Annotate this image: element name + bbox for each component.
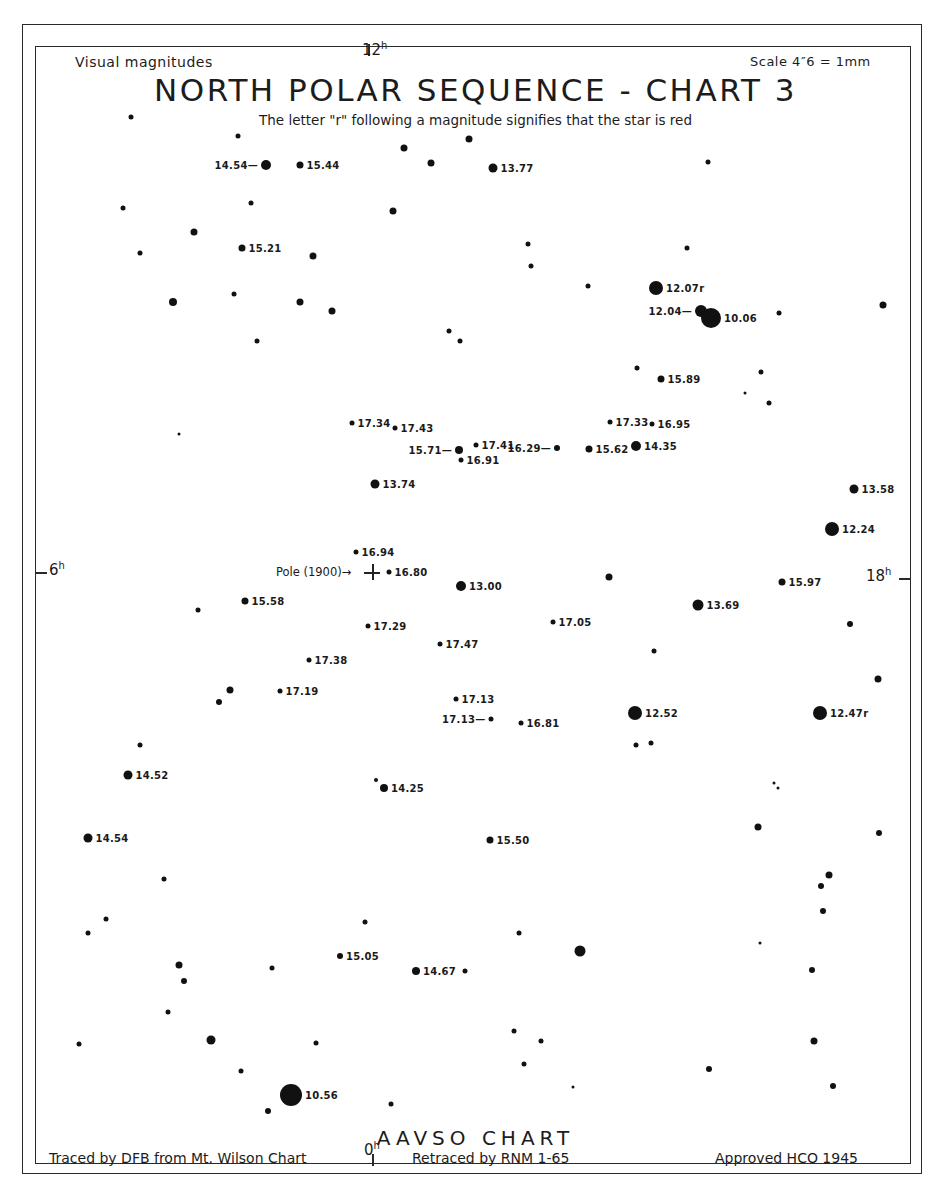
star-dot — [236, 134, 241, 139]
star-dot — [830, 1083, 836, 1089]
star-magnitude-label: 16.91 — [467, 455, 500, 466]
star-dot — [876, 830, 882, 836]
pole-label: Pole (1900)→ — [276, 565, 351, 579]
star-dot — [519, 721, 524, 726]
star-dot — [314, 1041, 319, 1046]
star-magnitude-label: 17.13— — [442, 714, 485, 725]
star-dot — [138, 743, 143, 748]
star-dot — [261, 160, 271, 170]
star-dot — [86, 931, 91, 936]
star-dot — [779, 579, 786, 586]
star-dot — [196, 608, 201, 613]
star-dot — [232, 292, 237, 297]
star-dot — [176, 962, 183, 969]
star-magnitude-label: 17.05 — [559, 617, 592, 628]
star-dot — [526, 242, 531, 247]
star-magnitude-label: 14.52 — [136, 770, 169, 781]
star-dot — [227, 687, 234, 694]
star-dot — [825, 522, 839, 536]
star-dot — [777, 787, 780, 790]
star-dot — [759, 370, 764, 375]
star-dot — [389, 1102, 394, 1107]
star-dot — [428, 160, 435, 167]
star-dot — [685, 246, 690, 251]
star-dot — [489, 717, 494, 722]
star-dot — [456, 581, 466, 591]
star-dot — [487, 837, 494, 844]
star-magnitude-label: 14.54 — [96, 833, 129, 844]
star-dot — [586, 446, 593, 453]
star-dot — [631, 441, 641, 451]
star-dot — [363, 920, 368, 925]
star-dot — [454, 697, 459, 702]
star-magnitude-label: 17.47 — [446, 639, 479, 650]
hour-tick-right — [899, 578, 911, 580]
star-magnitude-label: 15.44 — [307, 160, 340, 171]
star-dot — [371, 480, 380, 489]
star-dot — [297, 299, 304, 306]
star-dot — [463, 969, 468, 974]
star-dot — [572, 1086, 575, 1089]
star-dot — [522, 1062, 527, 1067]
star-magnitude-label: 14.67 — [423, 966, 456, 977]
hour-label-top: 12h — [362, 40, 387, 59]
star-dot — [297, 162, 304, 169]
star-dot — [554, 445, 560, 451]
star-dot — [387, 570, 392, 575]
hour-label-right: 18h — [866, 566, 891, 585]
star-magnitude-label: 16.94 — [362, 547, 395, 558]
star-magnitude-label: 13.74 — [383, 479, 416, 490]
star-dot — [755, 824, 762, 831]
star-magnitude-label: 14.35 — [644, 441, 677, 452]
star-magnitude-label: 17.34 — [358, 418, 391, 429]
star-magnitude-label: 14.25 — [391, 783, 424, 794]
star-dot — [767, 401, 772, 406]
star-dot — [875, 676, 882, 683]
star-dot — [880, 302, 887, 309]
star-magnitude-label: 12.47r — [830, 708, 868, 719]
star-dot — [412, 967, 420, 975]
star-magnitude-label: 12.24 — [842, 524, 875, 535]
star-dot — [706, 160, 711, 165]
chart-title: NORTH POLAR SEQUENCE - CHART 3 — [0, 72, 951, 108]
star-dot — [652, 649, 657, 654]
magnitude-type-note: Visual magnitudes — [75, 54, 213, 70]
approval-credit: Approved HCO 1945 — [715, 1150, 858, 1166]
star-dot — [777, 311, 782, 316]
star-dot — [390, 208, 397, 215]
star-dot — [539, 1039, 544, 1044]
star-dot — [178, 433, 181, 436]
star-magnitude-label: 14.54— — [215, 160, 258, 171]
star-dot — [818, 883, 824, 889]
star-magnitude-label: 12.52 — [645, 708, 678, 719]
star-magnitude-label: 13.58 — [862, 484, 895, 495]
hour-tick-left — [35, 572, 47, 574]
star-dot — [255, 339, 260, 344]
star-dot — [820, 908, 826, 914]
star-dot — [337, 953, 343, 959]
star-magnitude-label: 16.95 — [658, 419, 691, 430]
star-dot — [635, 366, 640, 371]
inner-chart-border — [35, 46, 911, 1164]
star-dot — [447, 329, 452, 334]
star-dot — [310, 253, 317, 260]
star-dot — [608, 420, 613, 425]
star-dot — [374, 778, 378, 782]
pole-cross-icon — [372, 564, 374, 580]
star-dot — [759, 942, 762, 945]
star-dot — [650, 422, 655, 427]
star-dot — [826, 872, 833, 879]
star-dot — [121, 206, 126, 211]
retraced-by-credit: Retraced by RNM 1-65 — [412, 1150, 569, 1166]
star-dot — [169, 298, 177, 306]
scale-note: Scale 4″6 = 1mm — [750, 54, 871, 69]
star-dot — [207, 1036, 216, 1045]
star-dot — [270, 966, 275, 971]
star-magnitude-label: 17.38 — [315, 655, 348, 666]
star-dot — [706, 1066, 712, 1072]
star-dot — [380, 784, 388, 792]
star-magnitude-label: 16.80 — [395, 567, 428, 578]
star-dot — [628, 706, 642, 720]
traced-by-credit: Traced by DFB from Mt. Wilson Chart — [49, 1150, 306, 1166]
star-dot — [216, 699, 222, 705]
